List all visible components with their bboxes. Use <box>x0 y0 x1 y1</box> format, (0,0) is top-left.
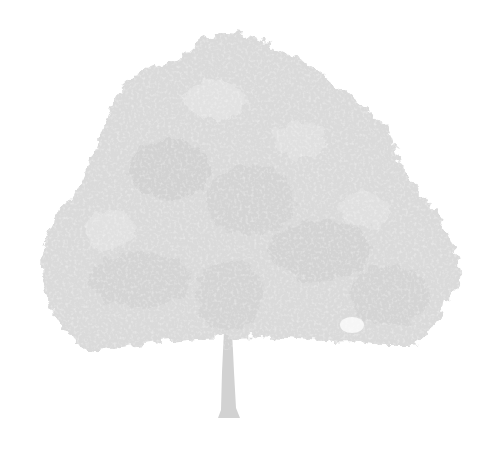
tree-image <box>0 0 492 454</box>
foliage-texture <box>35 30 465 350</box>
tree-illustration <box>0 0 492 454</box>
